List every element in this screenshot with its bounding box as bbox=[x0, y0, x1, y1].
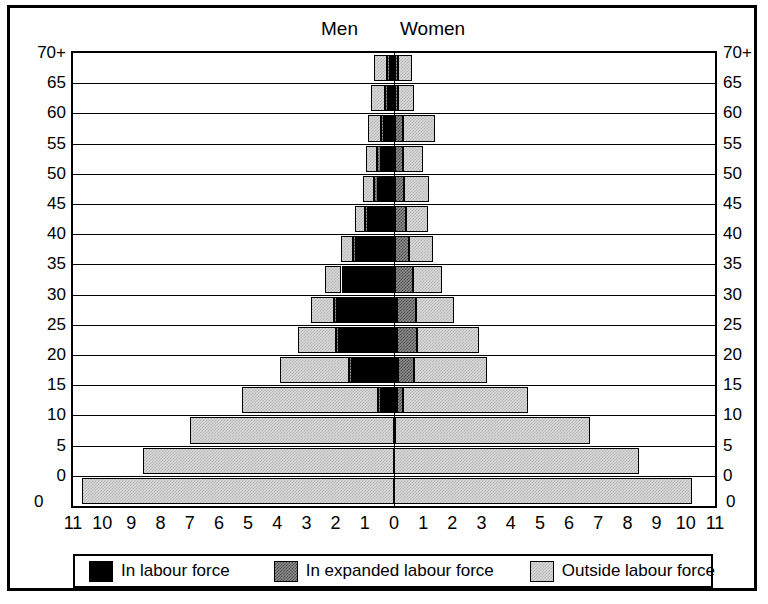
y-axis-label-right: 25 bbox=[723, 316, 742, 333]
y-axis-label-left: 40 bbox=[16, 225, 66, 242]
y-axis-label-right: 0 bbox=[723, 467, 732, 484]
segment-in-labour-force bbox=[378, 176, 394, 202]
segment-outside-labour-force bbox=[395, 417, 589, 443]
y-axis-label-left: 60 bbox=[16, 104, 66, 121]
y-axis-label-right: 65 bbox=[723, 74, 742, 91]
x-axis-tick-label: 10 bbox=[87, 513, 117, 534]
segment-outside-labour-force bbox=[143, 448, 394, 474]
x-axis-tick-label: 6 bbox=[554, 513, 584, 534]
segment-outside-labour-force bbox=[280, 357, 349, 383]
x-axis-tick-label: 3 bbox=[291, 513, 321, 534]
x-axis-tick-label: 2 bbox=[321, 513, 351, 534]
segment-outside-labour-force bbox=[374, 55, 387, 81]
segment-in-expanded-labour-force bbox=[397, 297, 416, 323]
segment-outside-labour-force bbox=[355, 206, 365, 232]
segment-in-expanded-labour-force bbox=[395, 146, 402, 172]
black-swatch bbox=[89, 561, 113, 582]
x-axis-tick-label: 11 bbox=[58, 513, 88, 534]
x-axis-zero-right-label: 0 bbox=[726, 492, 735, 512]
chart-frame: Men Women 70+65605550454035302520151050 … bbox=[7, 5, 757, 591]
y-axis-label-left: 15 bbox=[16, 376, 66, 393]
light-gray-swatch bbox=[530, 561, 554, 582]
segment-outside-labour-force bbox=[398, 85, 414, 111]
x-axis-tick-label: 6 bbox=[204, 513, 234, 534]
segment-outside-labour-force bbox=[371, 85, 386, 111]
segment-in-labour-force bbox=[381, 387, 394, 413]
y-axis-label-left: 30 bbox=[16, 286, 66, 303]
legend-item-exp[interactable]: In expanded labour force bbox=[264, 561, 494, 582]
y-axis-label-left: 65 bbox=[16, 74, 66, 91]
x-axis-tick-label: 3 bbox=[467, 513, 497, 534]
x-axis-tick-label: 8 bbox=[146, 513, 176, 534]
segment-outside-labour-force bbox=[404, 176, 429, 202]
segment-outside-labour-force bbox=[366, 146, 376, 172]
x-axis-tick-label: 1 bbox=[350, 513, 380, 534]
segment-outside-labour-force bbox=[394, 448, 639, 474]
y-axis-label-left: 0 bbox=[16, 467, 66, 484]
y-axis-label-right: 50 bbox=[723, 165, 742, 182]
x-axis-tick-label: 7 bbox=[583, 513, 613, 534]
segment-in-expanded-labour-force bbox=[395, 236, 408, 262]
segment-outside-labour-force bbox=[417, 327, 478, 353]
segment-in-labour-force bbox=[394, 357, 398, 383]
x-axis-tick-label: 5 bbox=[525, 513, 555, 534]
legend-item-in[interactable]: In labour force bbox=[79, 561, 230, 582]
segment-in-expanded-labour-force bbox=[398, 357, 414, 383]
x-axis-tick-label: 11 bbox=[700, 513, 730, 534]
y-axis-label-left: 55 bbox=[16, 135, 66, 152]
y-axis-label-left: 45 bbox=[16, 195, 66, 212]
y-axis-label-left: 50 bbox=[16, 165, 66, 182]
y-axis-label-right: 55 bbox=[723, 135, 742, 152]
segment-outside-labour-force bbox=[190, 417, 394, 443]
legend-item-out[interactable]: Outside labour force bbox=[520, 561, 715, 582]
y-axis-label-left: 20 bbox=[16, 346, 66, 363]
y-axis-label-right: 5 bbox=[723, 437, 732, 454]
women-column-title: Women bbox=[400, 18, 465, 40]
x-axis-tick-label: 9 bbox=[642, 513, 672, 534]
population-pyramid-plot bbox=[71, 51, 717, 508]
segment-outside-labour-force bbox=[82, 478, 394, 504]
segment-outside-labour-force bbox=[298, 327, 336, 353]
y-axis-label-left: 10 bbox=[16, 406, 66, 423]
y-axis-label-right: 45 bbox=[723, 195, 742, 212]
segment-in-labour-force bbox=[344, 266, 394, 292]
segment-outside-labour-force bbox=[368, 115, 381, 141]
segment-outside-labour-force bbox=[363, 176, 373, 202]
x-axis-tick-label: 9 bbox=[116, 513, 146, 534]
y-axis-label-left: 5 bbox=[16, 437, 66, 454]
zero-axis-line bbox=[394, 53, 395, 506]
y-axis-label-right: 60 bbox=[723, 104, 742, 121]
segment-in-expanded-labour-force bbox=[397, 327, 417, 353]
segment-outside-labour-force bbox=[409, 236, 434, 262]
y-axis-label-left: 25 bbox=[16, 316, 66, 333]
x-axis-tick-label: 4 bbox=[496, 513, 526, 534]
y-axis-label-right: 20 bbox=[723, 346, 742, 363]
segment-outside-labour-force bbox=[242, 387, 378, 413]
x-axis-tick-label: 8 bbox=[612, 513, 642, 534]
x-axis-tick-label: 7 bbox=[175, 513, 205, 534]
chart-legend: In labour forceIn expanded labour forceO… bbox=[73, 554, 713, 588]
men-column-title: Men bbox=[321, 18, 358, 40]
x-axis-tick-label: 2 bbox=[437, 513, 467, 534]
legend-label: Outside labour force bbox=[562, 561, 715, 581]
x-axis-tick-label: 4 bbox=[262, 513, 292, 534]
y-axis-label-right: 40 bbox=[723, 225, 742, 242]
segment-outside-labour-force bbox=[403, 146, 423, 172]
segment-in-labour-force bbox=[339, 327, 394, 353]
segment-in-labour-force bbox=[337, 297, 394, 323]
y-axis-label-right: 30 bbox=[723, 286, 742, 303]
segment-outside-labour-force bbox=[413, 266, 442, 292]
segment-in-expanded-labour-force bbox=[395, 206, 405, 232]
x-axis-zero-left-label: 0 bbox=[34, 492, 43, 512]
segment-outside-labour-force bbox=[406, 206, 428, 232]
legend-label: In expanded labour force bbox=[306, 561, 494, 581]
segment-outside-labour-force bbox=[311, 297, 334, 323]
segment-in-expanded-labour-force bbox=[395, 115, 402, 141]
segment-outside-labour-force bbox=[403, 115, 435, 141]
segment-in-labour-force bbox=[381, 146, 394, 172]
y-axis-label-left: 35 bbox=[16, 255, 66, 272]
segment-in-labour-force bbox=[384, 115, 394, 141]
segment-outside-labour-force bbox=[325, 266, 341, 292]
segment-outside-labour-force bbox=[416, 297, 454, 323]
segment-outside-labour-force bbox=[398, 55, 413, 81]
